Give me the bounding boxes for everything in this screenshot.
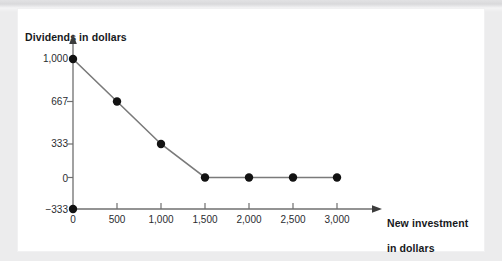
data-point-2500: [289, 173, 297, 181]
chart-panel: Dividends in dollars New investment in d…: [18, 9, 484, 251]
screenshot-stage: Dividends in dollars New investment in d…: [0, 0, 502, 261]
origin-point-marker: [69, 205, 77, 213]
x-axis-arrow-icon: [372, 205, 382, 213]
data-point-1000: [157, 140, 165, 148]
data-point-2000: [245, 173, 253, 181]
line-chart: Dividends in dollars New investment in d…: [18, 9, 484, 251]
y-axis-arrow-icon: [69, 34, 77, 44]
data-point-0: [69, 55, 77, 63]
data-point-500: [113, 97, 121, 105]
data-line: [73, 59, 337, 178]
data-point-3000: [333, 173, 341, 181]
chart-canvas: [18, 9, 484, 251]
data-point-1500: [201, 173, 209, 181]
